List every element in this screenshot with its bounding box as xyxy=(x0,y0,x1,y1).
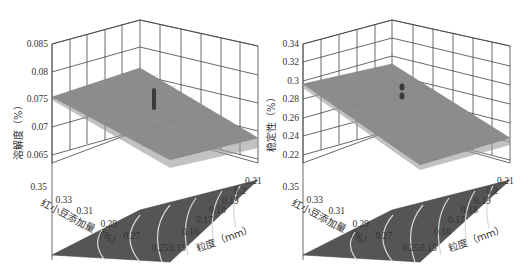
svg-text:0.2: 0.2 xyxy=(486,186,498,196)
design-point xyxy=(400,84,405,91)
svg-text:0.25: 0.25 xyxy=(402,243,419,253)
svg-text:0.085: 0.085 xyxy=(27,39,49,49)
design-points xyxy=(152,88,156,110)
left-chart-solubility: 0.085 0.08 0.075 0.07 0.065 溶解度（%） 0.35 … xyxy=(0,0,265,271)
svg-text:0.17: 0.17 xyxy=(196,215,213,225)
svg-text:0.17: 0.17 xyxy=(448,215,465,225)
svg-text:0.16: 0.16 xyxy=(434,227,451,237)
svg-text:0.24: 0.24 xyxy=(282,131,299,141)
z-axis-label: 溶解度（%） xyxy=(12,100,24,160)
svg-text:0.07: 0.07 xyxy=(31,122,48,132)
svg-text:0.25: 0.25 xyxy=(151,243,168,253)
svg-text:0.31: 0.31 xyxy=(328,206,345,216)
solubility-surface-plot: 0.085 0.08 0.075 0.07 0.065 溶解度（%） 0.35 … xyxy=(0,0,265,271)
svg-text:0.19: 0.19 xyxy=(222,196,239,206)
z-axis-label: 稳定性（%） xyxy=(265,92,277,152)
svg-text:0.065: 0.065 xyxy=(27,150,49,160)
svg-text:0.27: 0.27 xyxy=(123,231,140,241)
svg-text:0.15: 0.15 xyxy=(169,243,186,253)
stability-surface-plot: 0.34 0.32 0.3 0.28 0.26 0.24 0.22 稳定性（%）… xyxy=(265,0,530,271)
z-axis-ticks: 0.085 0.08 0.075 0.07 0.065 xyxy=(27,39,49,160)
svg-text:0.2: 0.2 xyxy=(234,186,246,196)
svg-text:0.28: 0.28 xyxy=(282,94,299,104)
svg-text:0.21: 0.21 xyxy=(245,176,262,186)
svg-text:0.21: 0.21 xyxy=(497,176,514,186)
svg-text:0.26: 0.26 xyxy=(282,113,299,123)
design-point xyxy=(400,93,405,100)
svg-text:0.27: 0.27 xyxy=(375,231,392,241)
svg-text:0.34: 0.34 xyxy=(282,39,299,49)
z-axis-ticks: 0.34 0.32 0.3 0.28 0.26 0.24 0.22 xyxy=(282,39,299,160)
svg-text:0.19: 0.19 xyxy=(474,196,491,206)
svg-text:0.08: 0.08 xyxy=(31,67,48,77)
svg-text:0.22: 0.22 xyxy=(282,150,299,160)
svg-text:0.18: 0.18 xyxy=(461,205,478,215)
svg-text:0.3: 0.3 xyxy=(287,76,299,86)
svg-text:0.35: 0.35 xyxy=(30,182,47,192)
svg-text:0.32: 0.32 xyxy=(282,57,299,67)
svg-text:0.35: 0.35 xyxy=(282,182,299,192)
svg-text:0.29: 0.29 xyxy=(352,219,369,229)
svg-text:0.15: 0.15 xyxy=(420,243,437,253)
svg-text:0.16: 0.16 xyxy=(182,227,199,237)
svg-text:0.075: 0.075 xyxy=(27,94,49,104)
right-chart-stability: 0.34 0.32 0.3 0.28 0.26 0.24 0.22 稳定性（%）… xyxy=(265,0,530,271)
svg-text:0.18: 0.18 xyxy=(209,205,226,215)
